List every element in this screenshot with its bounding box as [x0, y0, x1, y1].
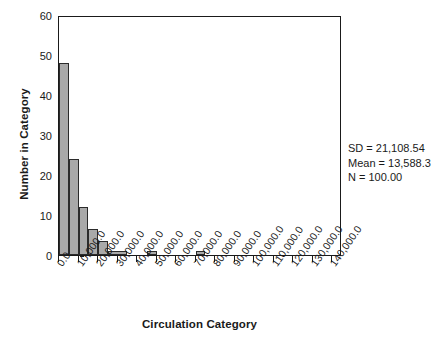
y-tick-label: 60 [40, 11, 52, 22]
histogram-bar [69, 159, 79, 255]
y-tick-label: 0 [46, 251, 52, 262]
y-tick-label: 40 [40, 91, 52, 102]
histogram-bars [59, 17, 340, 255]
y-tick-label: 20 [40, 171, 52, 182]
stat-mean: Mean = 13,588.3 [348, 156, 431, 171]
histogram-bar [59, 63, 69, 255]
y-tick-label: 30 [40, 131, 52, 142]
x-axis-title: Circulation Category [58, 318, 341, 330]
x-axis-tick-labels: 0.010,000.020,000.030,000.040,000.050,00… [58, 262, 341, 312]
stat-n: N = 100.00 [348, 170, 431, 185]
y-axis-tick-labels: 0102030405060 [26, 10, 52, 256]
histogram-figure: Number in Category 0102030405060 0.010,0… [0, 0, 448, 342]
y-tick-label: 10 [40, 211, 52, 222]
stat-sd: SD = 21,108.54 [348, 141, 431, 156]
statistics-annotation: SD = 21,108.54 Mean = 13,588.3 N = 100.0… [348, 141, 431, 185]
plot-area [58, 16, 341, 256]
y-tick-label: 50 [40, 51, 52, 62]
